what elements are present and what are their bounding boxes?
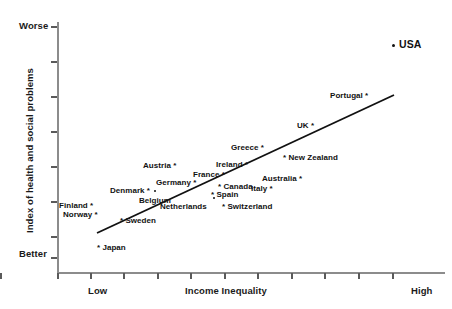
data-point-japan: * Japan bbox=[97, 243, 126, 252]
data-point-greece: Greece * bbox=[231, 143, 264, 152]
data-point-netherlands: Netherlands bbox=[160, 202, 207, 211]
data-point-switzerland: * Switzerland bbox=[222, 202, 272, 211]
data-point-uk: UK * bbox=[297, 121, 314, 130]
data-point-usa: USA bbox=[399, 38, 421, 50]
data-point-germany: Germany * bbox=[156, 178, 196, 187]
data-point-ireland: Ireland * bbox=[216, 160, 248, 169]
data-point-italy: Italy * bbox=[251, 184, 273, 193]
data-point-norway: Norway * bbox=[63, 210, 98, 219]
data-point-finland: Finland * bbox=[59, 201, 93, 210]
data-point-canada: * Canada bbox=[218, 182, 253, 191]
data-point-austria: Austria * bbox=[143, 161, 176, 170]
data-point-portugal: Portugal * bbox=[330, 91, 368, 100]
data-point-denmark: Denmark * bbox=[110, 186, 150, 195]
trend-line bbox=[0, 0, 452, 309]
data-point-spain: * Spain bbox=[211, 190, 238, 199]
data-point-new-zealand: * New Zealand bbox=[283, 153, 338, 162]
data-point-australia: Australia * bbox=[262, 174, 302, 183]
data-point-sweden: * Sweden bbox=[120, 216, 156, 225]
data-point-france: France * bbox=[193, 170, 225, 179]
scatter-chart: Worse Better Low High Income Inequality … bbox=[0, 0, 452, 309]
